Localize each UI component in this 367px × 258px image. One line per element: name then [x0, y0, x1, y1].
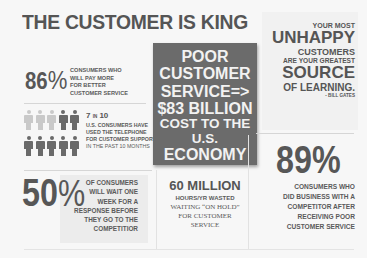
- text-line: THEY GO TO THE: [74, 215, 138, 224]
- quote-line-emphasis: UNHAPPY: [272, 29, 355, 47]
- divider: [24, 170, 152, 171]
- person-icon-highlighted: [59, 136, 68, 156]
- person-icon-highlighted: [59, 110, 68, 130]
- stat-7-in-10-description: U.S. CONSUMERS HAVE USED THE TELEPHONE F…: [86, 122, 156, 151]
- bill-gates-quote: YOUR MOST UNHAPPY CUSTOMERS ARE YOUR GRE…: [272, 22, 355, 98]
- text-line: WILL WAIT ONE: [74, 187, 138, 196]
- stat-7-in-10-header: 7 IN 10: [86, 111, 108, 120]
- percent-sign: %: [48, 65, 68, 95]
- text-line: FOR CUSTOMER: [155, 212, 255, 221]
- people-row-2: [24, 136, 84, 160]
- text-line: WILL PAY MORE: [70, 75, 128, 83]
- text-line: USED THE TELEPHONE: [86, 129, 156, 136]
- stat-60-million-value: 60 MILLION: [155, 178, 255, 193]
- text-line: CONSUMERS WHO: [283, 182, 355, 192]
- person-icon-highlighted: [47, 136, 56, 156]
- people-row-1: [24, 110, 84, 134]
- stat-60-million-subtitle: HOURS/YR WASTED: [155, 195, 255, 201]
- cost-line: ECONOMY: [153, 146, 257, 163]
- cost-line: COST TO THE U.S.: [153, 117, 257, 146]
- text-line: RESPONSE BEFORE: [74, 206, 138, 215]
- infographic-title: THE CUSTOMER IS KING: [22, 10, 248, 34]
- quote-line-emphasis: SOURCE: [272, 64, 355, 82]
- text-line: CONSUMERS WHO: [70, 67, 128, 75]
- person-icon-highlighted: [70, 110, 79, 130]
- stat-89-description: CONSUMERS WHO DID BUSINESS WITH A COMPET…: [283, 182, 355, 231]
- person-icon-highlighted: [70, 136, 79, 156]
- cost-box: POOR CUSTOMER SERVICE=> $83 BILLION COST…: [153, 43, 257, 165]
- text-line: CUSTOMER SERVICE: [283, 222, 355, 232]
- divider: [24, 249, 354, 250]
- person-icon-highlighted: [24, 136, 33, 156]
- cost-amount: $83 BILLION: [153, 100, 257, 117]
- stat-89-number: 89%: [276, 141, 341, 179]
- in-label: IN: [93, 114, 98, 119]
- text-line: FOR CUSTOMER SUPPORT: [86, 136, 156, 143]
- text-line: OF CONSUMERS: [74, 178, 138, 187]
- text-line: COMPETITIOR: [74, 224, 138, 233]
- person-icon-highlighted: [36, 136, 45, 156]
- cost-line: POOR: [153, 48, 257, 65]
- divider: [256, 133, 354, 134]
- text-line: COMPETITOR AFTER: [283, 202, 355, 212]
- stat-86-description: CONSUMERS WHO WILL PAY MORE FOR BETTER C…: [70, 67, 128, 97]
- text-line: FOR BETTER: [70, 82, 128, 90]
- people-icon-grid: [24, 110, 84, 160]
- numerator: 7: [86, 111, 90, 120]
- stat-60-million-description: WAITING “ON HOLD” FOR CUSTOMER SERVICE: [155, 203, 255, 229]
- stat-60-million: 60 MILLION HOURS/YR WASTED WAITING “ON H…: [155, 178, 255, 229]
- text-line: CUSTOMER SERVICE: [70, 90, 128, 98]
- stat-50-description: OF CONSUMERS WILL WAIT ONE WEEK FOR A RE…: [74, 178, 138, 234]
- stat-50-digits: 50: [22, 172, 58, 214]
- person-icon: [47, 110, 56, 130]
- text-line: WAITING “ON HOLD”: [155, 203, 255, 212]
- cost-line: CUSTOMER: [153, 65, 257, 82]
- divider: [24, 103, 146, 104]
- text-line: WEEK FOR A: [74, 197, 138, 206]
- cost-line: SERVICE=>: [153, 83, 257, 100]
- denominator: 10: [99, 111, 108, 120]
- person-icon: [36, 110, 45, 130]
- person-icon: [24, 110, 33, 130]
- text-line: U.S. CONSUMERS HAVE: [86, 122, 156, 129]
- quote-author: - BILL GATES: [272, 93, 355, 98]
- quote-line: CUSTOMERS: [272, 47, 355, 57]
- text-line: RECEIVING POOR: [283, 212, 355, 222]
- stat-86-number: 86%: [25, 67, 67, 93]
- stat-86-digits: 86: [25, 67, 48, 94]
- text-line: SERVICE: [155, 221, 255, 230]
- text-line: IN THE PAST 10 MONTHS: [86, 143, 156, 150]
- quote-line: OF LEARNING.: [272, 82, 355, 93]
- text-line: DID BUSINESS WITH A: [283, 192, 355, 202]
